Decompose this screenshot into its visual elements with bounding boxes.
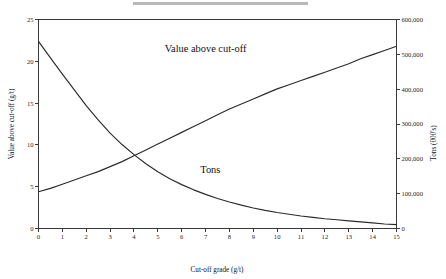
- y-axis-right-title: Tons (000's): [430, 125, 438, 161]
- chart-figure: 0123456789101112131415 0510152025 0100,0…: [0, 0, 446, 279]
- y2-tick-label: 600,000: [402, 16, 424, 23]
- x-tick-label: 6: [180, 233, 184, 240]
- x-tick-label: 11: [298, 233, 304, 240]
- y-tick-label: 0: [30, 225, 34, 232]
- y-tick-label: 10: [27, 141, 34, 148]
- x-axis-ticks: 0123456789101112131415: [37, 229, 401, 241]
- y-axis-left-ticks: 0510152025: [27, 16, 39, 232]
- x-tick-label: 13: [345, 233, 352, 240]
- x-axis-title: Cut-off grade (g/t): [191, 266, 245, 274]
- x-tick-label: 12: [322, 233, 329, 240]
- y-axis-left-title: Value above cut-off (g/t): [8, 88, 16, 159]
- x-tick-label: 1: [61, 233, 64, 240]
- y-axis-right-ticks: 0100,000200,000300,000400,000500,000600,…: [397, 16, 424, 232]
- x-tick-label: 14: [369, 233, 376, 240]
- y2-tick-label: 200,000: [402, 155, 424, 162]
- y2-tick-label: 300,000: [402, 120, 424, 127]
- x-tick-label: 7: [204, 233, 208, 240]
- y-tick-label: 20: [27, 58, 34, 65]
- x-tick-label: 3: [108, 233, 112, 240]
- x-tick-label: 2: [85, 233, 88, 240]
- series-annotations: Value above cut-offTons: [165, 43, 247, 175]
- x-tick-label: 0: [37, 233, 41, 240]
- top-scan-rule: [133, 2, 308, 5]
- data-series-group: [39, 41, 397, 224]
- annotation-label: Tons: [200, 164, 220, 175]
- y-tick-label: 25: [27, 16, 34, 23]
- x-tick-label: 4: [132, 233, 136, 240]
- y2-tick-label: 100,000: [402, 190, 424, 197]
- x-tick-label: 5: [156, 233, 160, 240]
- y-tick-label: 5: [30, 183, 34, 190]
- x-tick-label: 8: [228, 233, 232, 240]
- cutoff-grade-chart: 0123456789101112131415 0510152025 0100,0…: [0, 0, 446, 279]
- y2-tick-label: 0: [402, 225, 406, 232]
- y2-tick-label: 400,000: [402, 86, 424, 93]
- y2-tick-label: 500,000: [402, 51, 424, 58]
- x-tick-label: 15: [393, 233, 400, 240]
- x-tick-label: 9: [252, 233, 256, 240]
- y-tick-label: 15: [27, 100, 34, 107]
- annotation-label: Value above cut-off: [165, 43, 247, 54]
- x-tick-label: 10: [274, 233, 281, 240]
- series-curve-tons: [39, 41, 397, 224]
